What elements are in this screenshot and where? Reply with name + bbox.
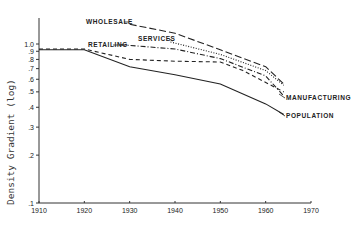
y-tick-label: .6: [28, 76, 34, 83]
x-tick-label: 1970: [303, 207, 319, 214]
y-tick-label: .4: [28, 104, 34, 111]
x-tick-label: 1960: [258, 207, 274, 214]
y-tick-label: .1: [28, 200, 34, 207]
y-tick-label: .9: [28, 48, 34, 55]
series-line-wholesale: [130, 24, 284, 84]
y-tick-label: 1.0: [24, 41, 34, 48]
y-tick-label: .2: [28, 152, 34, 159]
series-label-services: SERVICES: [138, 35, 176, 42]
series-line-manufacturing: [39, 49, 284, 92]
y-tick-label: .3: [28, 124, 34, 131]
y-tick-label: .8: [28, 56, 34, 63]
x-tick-label: 1910: [31, 207, 47, 214]
series-labels: WHOLESALESERVICESRETAILINGMANUFACTURINGP…: [86, 18, 351, 119]
series-label-population: POPULATION: [286, 112, 334, 119]
series-line-services: [171, 42, 284, 85]
x-tick-label: 1940: [167, 207, 183, 214]
x-tick-label: 1930: [122, 207, 138, 214]
x-tick-label: 1950: [213, 207, 229, 214]
axes: 19101920193019401950196019701.0.9.8.7.6.…: [24, 18, 319, 214]
y-axis-label: Density Gradient (log): [5, 79, 16, 205]
density-gradient-chart: 19101920193019401950196019701.0.9.8.7.6.…: [0, 0, 354, 229]
series-label-retailing: RETAILING: [88, 41, 128, 48]
series-label-manufacturing: MANUFACTURING: [286, 94, 351, 101]
series-label-wholesale: WHOLESALE: [86, 18, 133, 25]
series-line-retailing: [121, 45, 284, 96]
y-tick-label: .5: [28, 88, 34, 95]
y-tick-label: .7: [28, 65, 34, 72]
x-tick-label: 1920: [77, 207, 93, 214]
